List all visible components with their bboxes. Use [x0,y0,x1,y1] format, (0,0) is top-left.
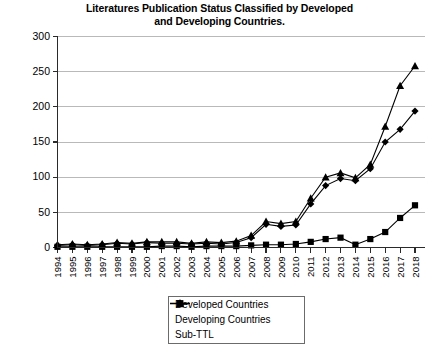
legend-label-developing-countries: Developing Countries [174,314,271,325]
x-axis-tick-label: 2000 [141,257,152,278]
x-axis-tick-label: 2008 [261,257,272,278]
data-series-group [54,62,420,250]
x-axis-tick-label: 2015 [365,257,376,278]
data-point-marker [232,237,240,244]
gridlines-group [53,37,425,248]
data-point-marker [262,217,270,224]
y-axis-tick-label: 0 [44,241,50,253]
data-point-marker [382,229,388,235]
x-axis-tick-label: 2006 [231,257,242,278]
data-point-marker [337,235,343,241]
data-point-marker [308,239,314,245]
y-axis-labels-group: 050100150200250300 [32,30,50,253]
y-axis-tick-label: 250 [32,65,50,77]
y-axis-tick-label: 100 [32,170,50,182]
x-axis-tick-label: 1999 [127,257,138,278]
x-axis-tick-label: 2011 [305,257,316,277]
x-axis-tick-label: 2012 [320,257,331,278]
legend-item-sub-ttl: Sub-TTL [169,327,304,342]
legend-label-sub-ttl: Sub-TTL [174,329,214,340]
x-axis-tick-label: 2001 [156,257,167,278]
data-point-marker [337,169,345,176]
x-axis-tick-label: 2009 [276,257,287,278]
data-point-marker [323,236,329,242]
y-axis-tick-label: 300 [32,30,50,42]
x-axis-tick-label: 1994 [52,257,63,278]
x-axis-tick-label: 1995 [67,257,78,278]
data-point-marker [307,194,315,201]
data-point-marker [367,236,373,242]
x-axis-tick-label: 2010 [290,257,301,278]
x-axis-tick-label: 1996 [82,257,93,278]
data-point-marker [381,123,389,130]
triangle-marker-icon [169,297,191,310]
data-point-marker [411,62,419,69]
x-axis-tick-label: 2013 [335,257,346,278]
y-axis-tick-label: 150 [32,135,50,147]
x-axis-tick-label: 2007 [246,257,257,278]
data-point-marker [412,202,418,208]
x-axis-tick-label: 2004 [201,257,212,278]
data-point-marker [293,241,299,247]
x-axis-tick-label: 2003 [186,257,197,278]
x-axis-tick-label: 2014 [350,257,361,278]
y-axis-tick-label: 200 [32,100,50,112]
x-axis-tick-label: 2017 [395,257,406,278]
y-axis-tick-label: 50 [38,206,50,218]
chart-legend: Developed Countries Developing Countries… [168,296,305,344]
x-axis-tick-label: 2005 [216,257,227,278]
legend-item-developing-countries: Developing Countries [169,312,304,327]
series-line-sub-ttl [58,66,416,245]
x-axis-tick-label: 1997 [97,257,108,278]
series-line-developed-countries [58,111,416,245]
x-axis-tick-label: 2016 [380,257,391,278]
x-axis-labels-group: 1994199519961997199819992000200120022003… [52,257,421,278]
x-axis-tick-label: 2018 [410,257,421,278]
x-axis-tick-label: 2002 [171,257,182,278]
data-point-marker [397,215,403,221]
x-axis-tick-label: 1998 [112,257,123,278]
